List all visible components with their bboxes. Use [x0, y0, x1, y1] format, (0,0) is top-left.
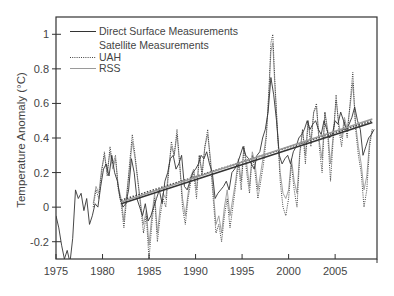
series-direct-surface-measurements: [56, 78, 374, 263]
y-tick-label: 0.2: [34, 167, 49, 179]
x-tick-label: 1985: [137, 265, 161, 277]
legend-label: Direct Surface Measurements: [99, 25, 238, 37]
y-tick-label: 0: [43, 201, 49, 213]
y-tick-label: 0.4: [34, 132, 49, 144]
x-tick-label: 2000: [276, 265, 300, 277]
legend-label: RSS: [99, 62, 121, 74]
trend-line: [121, 122, 372, 203]
trend-line: [121, 119, 372, 202]
x-tick-label: 1990: [183, 265, 207, 277]
x-tick-label: 1975: [44, 265, 68, 277]
x-axis: 1975198019851990199520002005: [44, 254, 377, 277]
y-tick-label: 1: [43, 28, 49, 40]
legend: Direct Surface MeasurementsSatellite Mea…: [70, 25, 238, 74]
series-uah: [93, 34, 372, 259]
temperature-anomaly-chart: 1975198019851990199520002005 -0.200.20.4…: [0, 0, 394, 296]
legend-label: Satellite Measurements: [99, 39, 209, 51]
y-axis-title: Temperature Anomaly (°C): [15, 72, 27, 208]
y-tick-label: 0.6: [34, 97, 49, 109]
y-tick-label: -0.2: [30, 236, 49, 248]
x-tick-label: 1980: [90, 265, 114, 277]
x-tick-label: 2005: [323, 265, 347, 277]
series-rss: [93, 43, 372, 245]
x-tick-label: 1995: [230, 265, 254, 277]
y-tick-label: 0.8: [34, 63, 49, 75]
